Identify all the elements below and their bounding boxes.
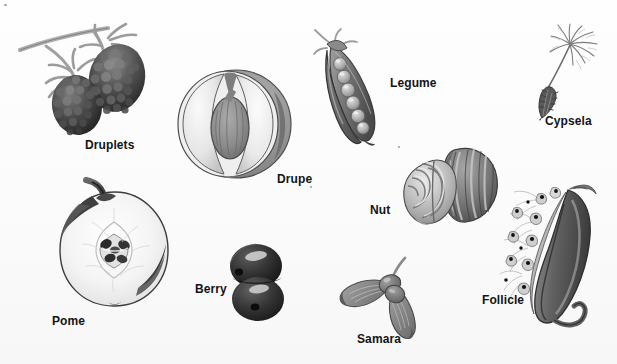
label-berry: Berry	[195, 282, 227, 296]
specimen-druplets	[16, 22, 150, 140]
specimen-pome	[52, 182, 178, 314]
label-follicle: Follicle	[482, 293, 524, 307]
specimen-berry	[222, 242, 290, 322]
label-samara: Samara	[357, 332, 401, 346]
label-cypsela: Cypsela	[545, 114, 592, 128]
specimen-follicle	[494, 184, 612, 342]
scan-speck	[310, 186, 312, 188]
label-nut: Nut	[370, 203, 390, 217]
label-druplets: Druplets	[85, 138, 134, 152]
specimen-cypsela	[520, 24, 602, 120]
specimen-drupe	[166, 66, 294, 182]
label-drupe: Drupe	[277, 172, 312, 186]
label-legume: Legume	[390, 76, 437, 90]
specimen-legume	[313, 28, 389, 150]
label-pome: Pome	[52, 314, 85, 328]
fruit-types-figure: Druplets	[0, 0, 617, 364]
specimen-nut	[398, 140, 502, 228]
scan-speck	[4, 4, 7, 6]
